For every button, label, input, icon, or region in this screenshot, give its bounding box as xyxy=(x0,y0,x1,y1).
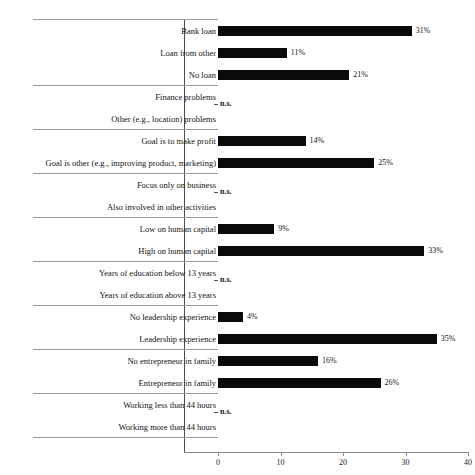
axis-tick-mark xyxy=(214,280,218,281)
chart-row: No entrepreneur in family16% xyxy=(33,350,475,372)
group-separator xyxy=(33,173,218,174)
category-label: Goal is to make profit xyxy=(33,130,216,152)
category-label: High on human capital xyxy=(33,240,216,262)
category-label: Loan from other xyxy=(33,42,216,64)
chart-row: Bank loan31% xyxy=(33,20,475,42)
not-significant-marker: n.s. xyxy=(220,187,232,196)
chart-row: Goal is other (e.g., improving product, … xyxy=(33,152,475,174)
group-separator xyxy=(33,437,218,438)
bar-value-label: 33% xyxy=(428,246,443,256)
bar xyxy=(218,224,274,234)
x-axis-tick-label: 30 xyxy=(402,458,410,467)
category-label: Bank loan xyxy=(33,20,216,42)
x-axis-tick-label: 40 xyxy=(464,458,472,467)
group-separator xyxy=(33,393,218,394)
not-significant-marker: n.s. xyxy=(220,99,232,108)
clipped-caption-text xyxy=(33,0,443,8)
chart-row: Working less than 44 hours xyxy=(33,394,475,416)
bar xyxy=(218,48,287,58)
category-label: Years of education below 13 years xyxy=(33,262,216,284)
group-separator xyxy=(33,129,218,130)
group-separator xyxy=(33,19,218,20)
horizontal-bar-chart: Bank loan31%Loan from other11%No loan21%… xyxy=(0,0,475,475)
x-axis-tick xyxy=(218,452,219,456)
chart-row: Finance problems xyxy=(33,86,475,108)
category-label: Entrepreneur in family xyxy=(33,372,216,394)
bar-value-label: 9% xyxy=(278,224,289,234)
bar-value-label: 25% xyxy=(378,158,393,168)
bar xyxy=(218,26,412,36)
bar xyxy=(218,378,381,388)
not-significant-marker: n.s. xyxy=(220,407,232,416)
chart-row: Years of education below 13 years xyxy=(33,262,475,284)
group-separator xyxy=(33,217,218,218)
bar-value-label: 16% xyxy=(322,356,337,366)
bar xyxy=(218,158,374,168)
category-label: Finance problems xyxy=(33,86,216,108)
bar xyxy=(218,334,437,344)
chart-row: Loan from other11% xyxy=(33,42,475,64)
bar-value-label: 14% xyxy=(310,136,325,146)
chart-row: No leadership experience4% xyxy=(33,306,475,328)
axis-tick-mark xyxy=(214,412,218,413)
x-axis-tick-label: 0 xyxy=(216,458,220,467)
group-separator xyxy=(33,349,218,350)
x-axis-tick xyxy=(468,452,469,456)
chart-row: Other (e.g., location) problems xyxy=(33,108,475,130)
x-axis-tick-label: 20 xyxy=(339,458,347,467)
category-label: Also involved in other activities xyxy=(33,196,216,218)
category-label: Working less than 44 hours xyxy=(33,394,216,416)
bar xyxy=(218,312,243,322)
chart-row: High on human capital33% xyxy=(33,240,475,262)
group-separator xyxy=(33,305,218,306)
category-label: No loan xyxy=(33,64,216,86)
category-label: No leadership experience xyxy=(33,306,216,328)
plot-area: Bank loan31%Loan from other11%No loan21%… xyxy=(33,10,475,442)
bar xyxy=(218,136,306,146)
bar xyxy=(218,246,424,256)
x-axis-line xyxy=(184,452,468,453)
chart-row: Working more than 44 hours xyxy=(33,416,475,438)
axis-tick-mark xyxy=(214,104,218,105)
x-axis-tick xyxy=(343,452,344,456)
category-label: Focus only on business xyxy=(33,174,216,196)
chart-row: Focus only on business xyxy=(33,174,475,196)
x-axis-tick xyxy=(406,452,407,456)
bar-value-label: 26% xyxy=(385,378,400,388)
group-separator xyxy=(33,261,218,262)
category-label: Other (e.g., location) problems xyxy=(33,108,216,130)
group-separator xyxy=(33,85,218,86)
category-label: Working more than 44 hours xyxy=(33,416,216,438)
chart-row: Also involved in other activities xyxy=(33,196,475,218)
axis-tick-mark xyxy=(214,192,218,193)
chart-row: No loan21% xyxy=(33,64,475,86)
chart-row: Years of education above 13 years xyxy=(33,284,475,306)
category-label: Leadership experience xyxy=(33,328,216,350)
chart-row: Goal is to make profit14% xyxy=(33,130,475,152)
x-axis-tick xyxy=(281,452,282,456)
category-label: Years of education above 13 years xyxy=(33,284,216,306)
x-axis-tick-label: 10 xyxy=(277,458,285,467)
chart-row: Leadership experience35% xyxy=(33,328,475,350)
chart-row: Low on human capital9% xyxy=(33,218,475,240)
category-label: Goal is other (e.g., improving product, … xyxy=(33,152,216,174)
category-label: Low on human capital xyxy=(33,218,216,240)
chart-row: Entrepreneur in family26% xyxy=(33,372,475,394)
not-significant-marker: n.s. xyxy=(220,275,232,284)
bar-value-label: 4% xyxy=(247,312,258,322)
category-label: No entrepreneur in family xyxy=(33,350,216,372)
bar-value-label: 11% xyxy=(291,48,305,58)
bar xyxy=(218,356,318,366)
bar-value-label: 31% xyxy=(416,26,431,36)
bar-value-label: 35% xyxy=(441,334,456,344)
bar-value-label: 21% xyxy=(353,70,368,80)
bar xyxy=(218,70,349,80)
